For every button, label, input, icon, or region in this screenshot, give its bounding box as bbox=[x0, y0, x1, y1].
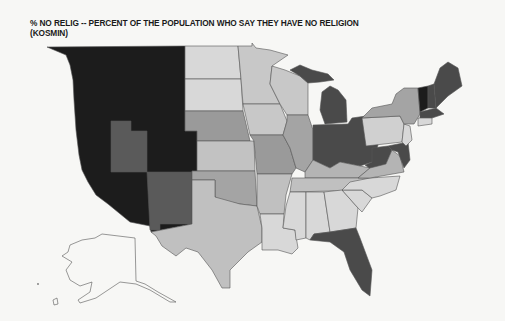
state-ia bbox=[243, 104, 287, 135]
state-mi-lower bbox=[320, 86, 347, 124]
state-vt bbox=[418, 86, 428, 112]
state-pa bbox=[362, 116, 404, 146]
us-choropleth-map bbox=[0, 0, 505, 321]
state-ak bbox=[62, 234, 176, 303]
state-ct-ri bbox=[418, 118, 432, 126]
state-hi bbox=[37, 283, 39, 285]
state-nj bbox=[402, 124, 412, 146]
state-ks bbox=[197, 141, 255, 171]
state-me bbox=[434, 62, 462, 108]
state-nd bbox=[185, 46, 241, 79]
state-fl bbox=[310, 228, 372, 296]
state-nm bbox=[147, 172, 192, 230]
state-sd bbox=[185, 79, 243, 111]
state-hi-island bbox=[53, 298, 58, 305]
